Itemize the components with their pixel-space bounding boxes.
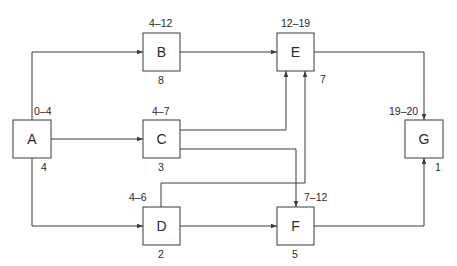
node-g-duration: 1 bbox=[435, 161, 441, 173]
node-b: B bbox=[143, 33, 180, 71]
node-b-range: 4–12 bbox=[149, 17, 173, 29]
node-c-range: 4–7 bbox=[152, 105, 170, 117]
node-f-range: 7–12 bbox=[304, 191, 328, 203]
node-d-range: 4–6 bbox=[129, 191, 147, 203]
node-c-duration: 3 bbox=[158, 161, 164, 173]
node-f-label: F bbox=[291, 218, 300, 234]
node-c-label: C bbox=[156, 131, 166, 147]
node-f: F bbox=[277, 207, 314, 245]
node-b-duration: 8 bbox=[158, 74, 164, 86]
edge-f-to-g bbox=[314, 158, 424, 226]
node-e-duration: 7 bbox=[320, 73, 326, 85]
edge-a-to-d bbox=[32, 158, 143, 226]
edge-d-to-e bbox=[161, 71, 305, 207]
node-e-label: E bbox=[291, 44, 300, 60]
node-a-label: A bbox=[27, 131, 37, 147]
node-d-duration: 2 bbox=[158, 248, 164, 260]
node-g-range: 19–20 bbox=[389, 105, 418, 117]
node-d-label: D bbox=[156, 218, 166, 234]
node-a-duration: 4 bbox=[41, 161, 47, 173]
node-a-range: 0–4 bbox=[34, 105, 52, 117]
node-c: C bbox=[143, 120, 180, 158]
edge-c-to-e bbox=[180, 71, 286, 130]
node-b-label: B bbox=[157, 44, 166, 60]
node-d: D bbox=[143, 207, 180, 245]
node-e: E bbox=[277, 33, 314, 71]
node-a: A bbox=[13, 120, 51, 158]
node-f-duration: 5 bbox=[292, 248, 298, 260]
activity-network-diagram: A 0–4 4 B 4–12 8 C 4–7 3 D 4–6 2 E 12–19… bbox=[0, 0, 457, 266]
edge-c-to-f bbox=[180, 149, 296, 207]
node-g: G bbox=[405, 120, 443, 158]
node-e-range: 12–19 bbox=[281, 17, 310, 29]
node-g-label: G bbox=[419, 131, 430, 147]
